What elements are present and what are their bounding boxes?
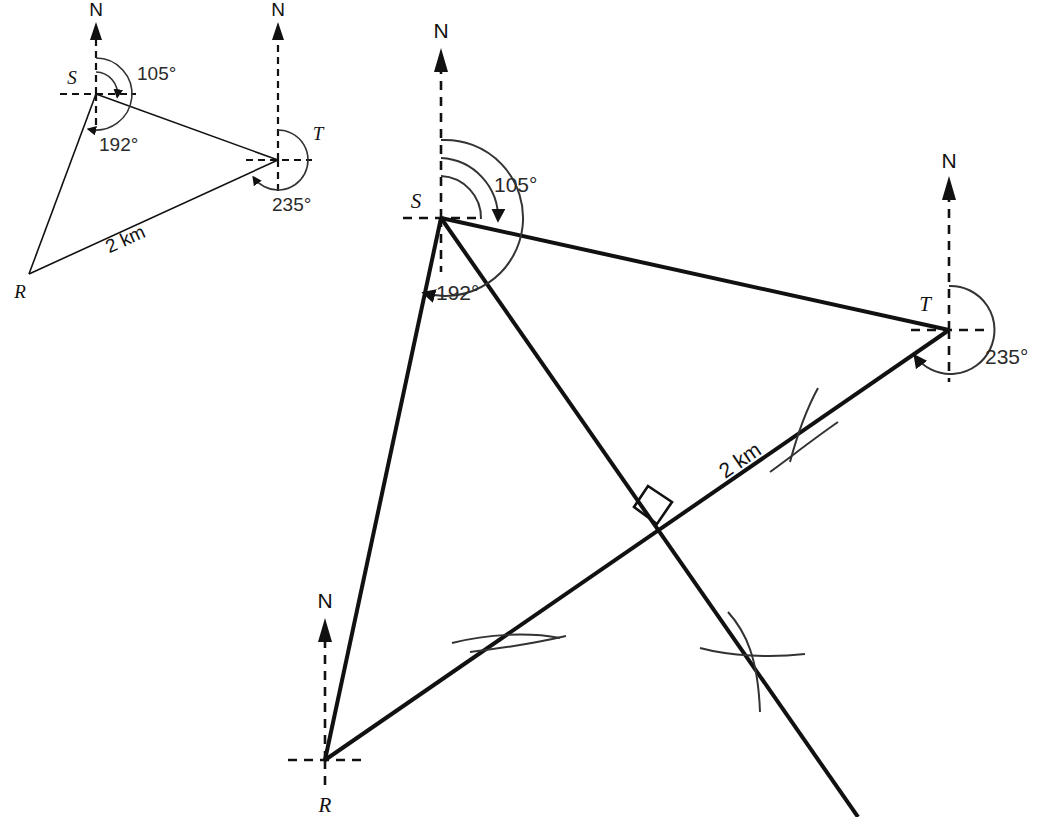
point-label-S-main: S	[411, 189, 422, 213]
north-label-T-main: N	[941, 149, 956, 172]
point-label-S-small: S	[67, 67, 77, 88]
north-label-S-small: N	[89, 0, 103, 20]
north-label-S-main: N	[433, 19, 448, 42]
north-label-T-small: N	[271, 0, 285, 20]
north-label-R-main: N	[317, 589, 332, 612]
point-label-T-small: T	[313, 123, 325, 144]
angle-label-192-small: 192°	[99, 134, 138, 155]
point-label-R-main: R	[318, 793, 332, 817]
angle-label-192-main: 192°	[436, 281, 479, 304]
angle-label-235-small: 235°	[272, 194, 311, 215]
point-label-T-main: T	[919, 292, 932, 316]
point-label-R-small: R	[13, 281, 26, 302]
bearings-geometry-figure: N S N T R 105° 192° 235° 2 km	[0, 0, 1042, 817]
diagram-canvas: N S N T R 105° 192° 235° 2 km	[0, 0, 1042, 817]
angle-label-235-main: 235°	[985, 345, 1028, 368]
angle-label-105-small: 105°	[137, 63, 176, 84]
background	[0, 0, 1042, 817]
angle-label-105-main: 105°	[494, 173, 537, 196]
